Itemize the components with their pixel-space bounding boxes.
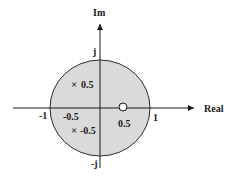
pole-label-lower: -0.5: [80, 125, 96, 136]
pole-label-upper: 0.5: [81, 79, 94, 90]
pole-zero-diagram: Im Real j -j -1 1 -0.5 × 0.5 × -0.5 0.5: [0, 0, 233, 176]
tick-label-neg-j: -j: [91, 158, 98, 169]
pole-marker-upper: ×: [71, 78, 77, 90]
tick-label-neg-1: -1: [39, 110, 47, 121]
zero-marker: [119, 103, 127, 111]
real-axis-label: Real: [204, 103, 224, 114]
imag-axis-label: Im: [93, 7, 106, 18]
zero-label: 0.5: [118, 118, 131, 129]
pole-marker-lower: ×: [71, 124, 77, 136]
tick-label-1: 1: [153, 112, 158, 123]
neg-half-real-label: -0.5: [63, 111, 79, 122]
tick-label-j: j: [92, 46, 96, 57]
